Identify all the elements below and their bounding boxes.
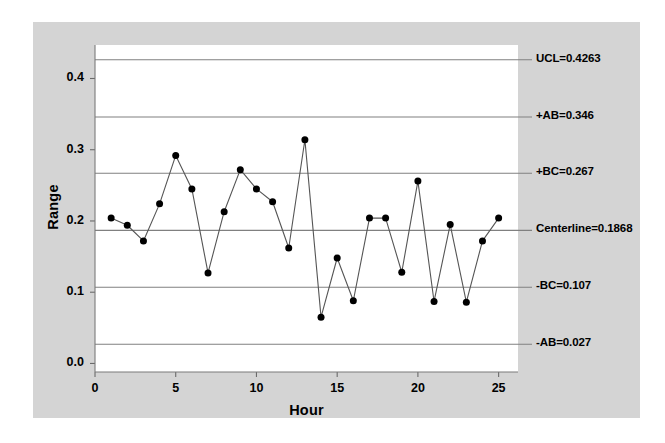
range-series-line [111, 140, 498, 317]
limit-label-minus_ab: -AB=0.027 [536, 336, 591, 348]
data-point-marker: Hour 9: 0.272 [237, 166, 244, 173]
data-point-marker: Hour 13: 0.314 [301, 136, 308, 143]
axis-lines [95, 45, 518, 372]
data-point-marker: Hour 18: 0.204 [382, 215, 389, 222]
data-point-marker: Hour 15: 0.148 [334, 255, 341, 262]
x-axis-tick-marks [95, 372, 499, 377]
y-tick-label: 0.2 [50, 213, 84, 227]
data-point-marker: Hour 21: 0.087 [431, 298, 438, 305]
y-tick-label: 0.3 [50, 142, 84, 156]
data-point-marker: Hour 11: 0.227 [269, 198, 276, 205]
data-point-marker: Hour 17: 0.204 [366, 215, 373, 222]
x-tick-label: 15 [323, 381, 351, 395]
x-tick-label: 25 [485, 381, 513, 395]
limit-label-minus_bc: -BC=0.107 [536, 279, 591, 291]
data-point-marker: Hour 1: 0.204 [108, 215, 115, 222]
y-axis-title: Range [45, 167, 61, 247]
limit-label-plus_ab: +AB=0.346 [536, 109, 594, 121]
y-tick-label: 0.4 [50, 70, 84, 84]
data-point-marker: Hour 12: 0.162 [285, 245, 292, 252]
data-point-marker: Hour 4: 0.224 [156, 200, 163, 207]
y-axis-tick-marks [90, 78, 95, 363]
data-point-marker: Hour 7: 0.127 [205, 269, 212, 276]
x-tick-label: 20 [404, 381, 432, 395]
x-tick-label: 0 [81, 381, 109, 395]
range-control-chart: Hour 1: 0.204Hour 2: 0.194Hour 3: 0.172H… [0, 0, 665, 443]
data-point-marker: Hour 16: 0.088 [350, 297, 357, 304]
series-polyline [111, 140, 498, 317]
y-tick-label: 0.1 [50, 284, 84, 298]
data-point-marker: Hour 25: 0.204 [495, 215, 502, 222]
limit-label-centerline: Centerline=0.1868 [536, 222, 632, 234]
y-tick-label: 0.0 [50, 355, 84, 369]
data-point-marker: Hour 2: 0.194 [124, 222, 131, 229]
data-point-marker: Hour 23: 0.086 [463, 299, 470, 306]
data-point-marker: Hour 6: 0.245 [188, 185, 195, 192]
data-point-marker: Hour 22: 0.195 [447, 221, 454, 228]
data-point-marker: Hour 19: 0.128 [398, 269, 405, 276]
data-point-marker: Hour 8: 0.213 [221, 208, 228, 215]
x-tick-label: 5 [162, 381, 190, 395]
data-point-marker: Hour 10: 0.245 [253, 185, 260, 192]
x-tick-label: 10 [242, 381, 270, 395]
data-point-marker: Hour 3: 0.172 [140, 237, 147, 244]
data-point-marker: Hour 14: 0.065 [318, 314, 325, 321]
data-point-marker: Hour 5: 0.292 [172, 152, 179, 159]
limit-label-ucl: UCL=0.4263 [536, 52, 601, 64]
range-series-markers: Hour 1: 0.204Hour 2: 0.194Hour 3: 0.172H… [108, 136, 502, 320]
data-point-marker: Hour 24: 0.172 [479, 237, 486, 244]
x-axis-title: Hour [247, 402, 367, 418]
limit-label-plus_bc: +BC=0.267 [536, 165, 594, 177]
data-point-marker: Hour 20: 0.256 [414, 178, 421, 185]
